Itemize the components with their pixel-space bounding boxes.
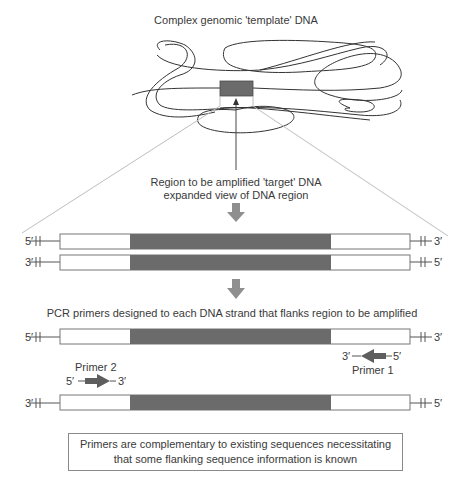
strand-2-right-end: 5′ <box>434 256 442 269</box>
strand-1-right-end: 3′ <box>434 235 442 248</box>
primer-1-left-end: 3′ <box>342 350 350 363</box>
primer-2-left-end: 5′ <box>66 375 74 388</box>
primed-strand-bottom <box>30 395 432 410</box>
note-line2: that some flanking sequence information … <box>69 452 402 467</box>
strand-2-left-end: 3′ <box>25 256 33 269</box>
target-label-line2: expanded view of DNA region <box>164 189 309 202</box>
primer-2-right-end: 3′ <box>118 375 126 388</box>
pcr-diagram-canvas <box>0 0 465 496</box>
target-pointer-arrowhead <box>233 98 239 105</box>
genomic-dna-tangle <box>132 40 402 132</box>
strand-1-left-end: 5′ <box>25 235 33 248</box>
primed-top-left-end: 5′ <box>25 331 33 344</box>
expanded-strand-1 <box>30 234 432 249</box>
primer-2-arrow <box>78 374 116 388</box>
target-label-line1: Region to be amplified 'target' DNA <box>150 176 321 189</box>
primers-heading: PCR primers designed to each DNA strand … <box>47 307 418 320</box>
process-arrow-down-1 <box>227 203 245 222</box>
diagram-title: Complex genomic 'template' DNA <box>154 14 318 27</box>
note-line1: Primers are complementary to existing se… <box>69 437 402 452</box>
primed-bottom-right-end: 5′ <box>434 397 442 410</box>
primed-top-right-end: 3′ <box>434 331 442 344</box>
note-box: Primers are complementary to existing se… <box>68 433 403 471</box>
expanded-strand-2 <box>30 255 432 270</box>
primer-1-arrow <box>352 349 392 363</box>
primer-2-label: Primer 2 <box>75 361 117 374</box>
primed-bottom-left-end: 3′ <box>25 397 33 410</box>
primer-1-right-end: 5′ <box>393 350 401 363</box>
target-region-box <box>220 81 253 96</box>
primer-1-label: Primer 1 <box>352 364 394 377</box>
primed-strand-top <box>30 329 432 344</box>
process-arrow-down-2 <box>227 279 245 299</box>
